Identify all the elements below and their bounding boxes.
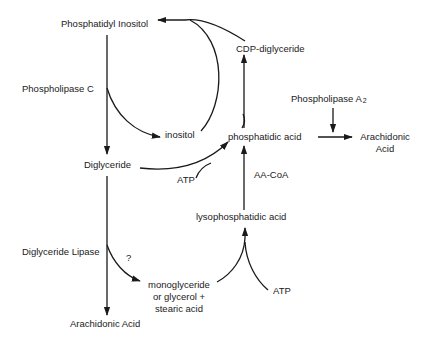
node-monoglyceride: monoglyceride or glycerol + stearic acid — [142, 279, 216, 315]
node-phosphatidyl-inositol: Phosphatidyl Inositol — [61, 18, 148, 30]
arrow-pi-to-inositol — [107, 88, 160, 137]
cofactor-atp-lower: ATP — [273, 285, 291, 297]
arrow-cdp-to-pi — [158, 20, 245, 41]
node-monoglyceride-line3: stearic acid — [142, 303, 216, 315]
enzyme-phospholipase-a2-label: Phospholipase A — [291, 93, 362, 104]
cofactor-atp-upper: ATP — [177, 174, 195, 186]
arrow-inositol-to-pi — [190, 20, 219, 131]
arrow-mg-to-lpa — [217, 228, 245, 282]
node-lysophosphatidic-acid: lysophosphatidic acid — [196, 211, 286, 223]
node-monoglyceride-line2: or glycerol + — [142, 291, 216, 303]
enzyme-phospholipase-a2-subscript: 2 — [363, 97, 367, 104]
atp-lower-feed — [245, 242, 268, 290]
cofactor-aa-coa: AA-CoA — [254, 169, 288, 181]
node-inositol: inositol — [165, 129, 195, 141]
node-monoglyceride-line1: monoglyceride — [142, 279, 216, 291]
node-arachidonic-acid-bottom: Arachidonic Acid — [70, 318, 140, 330]
annotation-question-mark: ? — [126, 252, 131, 264]
arrow-dg-to-mg — [107, 245, 140, 281]
enzyme-diglyceride-lipase: Diglyceride Lipase — [22, 246, 100, 258]
pathway-diagram: Phosphatidyl Inositol Phospholipase C in… — [0, 0, 429, 343]
node-arachidonic-acid-right-line1: Arachidonic — [356, 131, 414, 143]
node-cdp-diglyceride: CDP-diglyceride — [236, 43, 305, 55]
node-arachidonic-acid-right: Arachidonic Acid — [356, 131, 414, 155]
enzyme-phospholipase-a2: Phospholipase A2 — [291, 93, 367, 107]
arrow-dg-to-pa — [140, 142, 228, 169]
node-diglyceride: Diglyceride — [84, 159, 131, 171]
atp-upper-feed — [196, 163, 211, 178]
enzyme-phospholipase-c: Phospholipase C — [22, 83, 94, 95]
node-phosphatidic-acid: phosphatidic acid — [228, 131, 301, 143]
node-arachidonic-acid-right-line2: Acid — [356, 143, 414, 155]
